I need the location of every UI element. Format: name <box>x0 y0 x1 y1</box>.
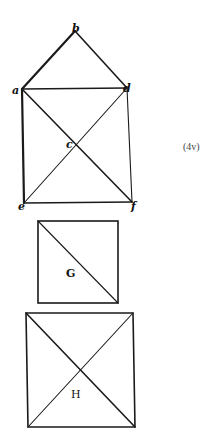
square-h-diagonal-2 <box>28 313 133 427</box>
geometry-diagram: b a d c e f (4v) G H <box>0 0 211 447</box>
segment-ae <box>22 89 24 203</box>
square-g-diagonal <box>38 221 118 303</box>
label-a: a <box>12 84 19 97</box>
square-g: G <box>38 221 118 303</box>
label-h: H <box>71 388 81 401</box>
diagonal-af <box>22 89 132 202</box>
label-e: e <box>18 200 25 213</box>
diagonal-de <box>24 88 127 203</box>
label-f: f <box>130 200 138 213</box>
segment-ad <box>22 88 127 89</box>
label-c: c <box>66 138 73 151</box>
segment-df <box>127 88 132 202</box>
house-figure: b a d c e f <box>12 22 138 213</box>
square-h: H <box>26 313 135 427</box>
page-reference: (4v) <box>183 141 200 153</box>
segment-ef <box>24 202 132 203</box>
label-b: b <box>72 22 80 35</box>
label-g: G <box>66 267 75 280</box>
label-d: d <box>123 82 131 95</box>
segment-ab <box>22 31 75 89</box>
segment-bd <box>75 31 127 88</box>
